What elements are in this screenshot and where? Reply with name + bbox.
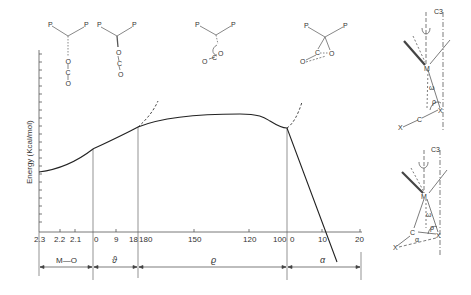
atom-label: O <box>329 50 335 57</box>
angle-label: α <box>415 236 419 243</box>
atom-label: P <box>231 21 236 28</box>
tick-label: 10 <box>318 235 327 244</box>
atom-label: O <box>202 58 208 65</box>
tick-label: 18 <box>129 235 138 244</box>
x-tick-labels: 2.3 2.2 2.1 0 9 18 180 150 120 100 0 10 … <box>34 235 364 244</box>
atom-label: P <box>48 21 53 28</box>
atom-label: P <box>195 21 200 28</box>
atom-label: P <box>343 22 348 29</box>
tick-label: 2.1 <box>70 235 82 244</box>
atom-label: O <box>300 58 306 65</box>
y-axis <box>39 50 42 232</box>
atom-label: X <box>436 232 441 239</box>
atom-label: M <box>424 65 430 72</box>
atom-label: C <box>315 49 320 56</box>
atom-label: O <box>116 49 122 56</box>
atom-label: C <box>66 69 71 76</box>
side-diagram-bottom <box>397 150 447 256</box>
section-dividers <box>39 127 361 280</box>
x-axis <box>39 229 362 232</box>
tick-label: 120 <box>243 235 257 244</box>
atom-label: P <box>132 21 137 28</box>
atom-label: C <box>117 60 122 67</box>
atom-label: X <box>398 124 403 131</box>
tick-label: 150 <box>188 235 202 244</box>
angle-label: ρ <box>432 98 436 106</box>
dashed-branch-2 <box>287 102 302 128</box>
atom-label: X <box>438 107 443 114</box>
structure-4 <box>306 27 343 62</box>
tick-label: 9 <box>114 235 119 244</box>
atom-label: P <box>97 21 102 28</box>
section-arrows <box>40 266 360 269</box>
c3-axis-label: C3 <box>434 8 443 15</box>
atom-label: C <box>212 54 217 61</box>
atom-label: M <box>421 193 427 200</box>
section-label-alpha: α <box>320 255 326 265</box>
atom-label: C <box>410 229 415 236</box>
angle-label: ρ <box>430 224 434 232</box>
section-label-m-o: M—O <box>56 256 77 265</box>
angle-label: ω <box>429 84 435 91</box>
atom-label: O <box>66 80 72 87</box>
atom-label: P <box>84 21 89 28</box>
section-label-rho: ϱ <box>211 255 216 265</box>
tick-label: 0 <box>94 235 99 244</box>
tick-label: 20 <box>355 235 364 244</box>
y-axis-label: Energy (Kcal/mol) <box>25 120 34 184</box>
angle-label: ω <box>426 211 432 218</box>
tick-label: 2.3 <box>34 235 46 244</box>
atom-label: O <box>118 71 124 78</box>
tick-label: 100 <box>273 235 287 244</box>
atom-label: O <box>66 58 72 65</box>
tick-label: 0 <box>290 235 295 244</box>
atom-label: C <box>417 116 422 123</box>
section-label-theta: ϑ <box>112 255 118 265</box>
c3-axis-label: C3 <box>431 146 440 153</box>
energy-diagram: Energy (Kcal/mol) 2.3 2.2 2.1 0 9 18 180… <box>0 0 471 295</box>
atom-label: O <box>218 50 224 57</box>
atom-label: X <box>393 244 398 251</box>
atom-label: P <box>304 22 309 29</box>
tick-label: 2.2 <box>54 235 66 244</box>
tick-label: 180 <box>139 235 153 244</box>
